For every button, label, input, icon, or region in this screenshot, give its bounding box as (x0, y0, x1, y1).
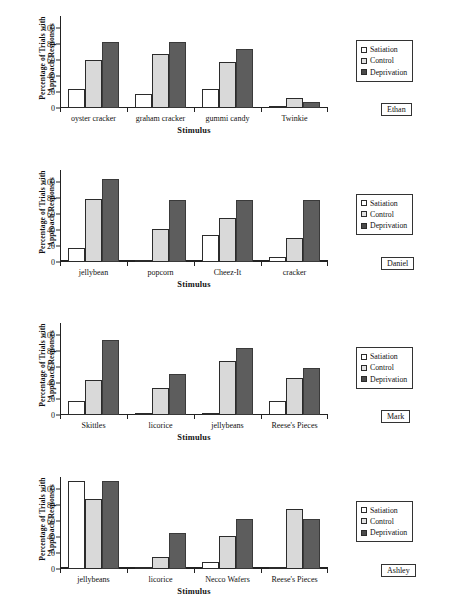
bar-deprivation (303, 200, 320, 262)
legend-swatch-icon (361, 58, 367, 64)
plot-area: 020406080100SkittleslicoricejellybeansRe… (60, 323, 328, 415)
x-axis-title: Stimulus (60, 126, 328, 135)
bar-deprivation (102, 481, 119, 569)
x-axis-tick-mark (60, 108, 61, 112)
x-axis-tick-mark (127, 108, 128, 112)
bar-group: graham cracker (127, 16, 194, 108)
x-axis-tick-mark (127, 415, 128, 419)
x-axis-category-label: gummi candy (194, 114, 261, 123)
x-axis-category-label: jellybeans (194, 421, 261, 430)
bars (135, 170, 186, 262)
legend-label: Deprivation (370, 220, 407, 231)
bar-group: Necco Wafers (194, 477, 261, 569)
bar-control (286, 98, 303, 108)
x-axis-category-label: Reese's Pieces (261, 421, 328, 430)
bar-control (286, 238, 303, 262)
bar-deprivation (102, 179, 119, 261)
bar-groups: jellybeanpopcornCheez-Itcracker (60, 170, 328, 262)
x-axis-tick-mark (194, 262, 195, 266)
chart-panel-ashley: Percentage of Trials with Approach Respo… (0, 461, 467, 614)
plot-area: 020406080100oyster crackergraham cracker… (60, 16, 328, 108)
x-axis-category-label: Cheez-It (194, 268, 261, 277)
legend-item: Deprivation (361, 220, 407, 231)
x-axis-tick-mark (60, 262, 61, 266)
bars (269, 477, 320, 569)
bar-deprivation (169, 42, 186, 108)
bar-satiation (68, 248, 85, 262)
legend: SatiationControlDeprivation (356, 347, 413, 389)
bar-control (85, 60, 102, 108)
bar-group: Skittles (60, 323, 127, 415)
x-axis-tick-mark (327, 569, 328, 573)
x-axis-tick-mark (127, 262, 128, 266)
bar-group: popcorn (127, 170, 194, 262)
x-axis-tick-mark (60, 569, 61, 573)
legend-swatch-icon (361, 530, 367, 536)
legend-label: Control (370, 516, 394, 527)
x-axis-category-label: graham cracker (127, 114, 194, 123)
participant-tag: Ethan (381, 103, 412, 116)
legend-item: Satiation (361, 44, 407, 55)
bars (202, 323, 253, 415)
participant-tag: Ashley (381, 564, 416, 577)
bar-deprivation (169, 374, 186, 415)
x-axis-category-label: Twinkie (261, 114, 328, 123)
bars (135, 16, 186, 108)
legend-label: Control (370, 209, 394, 220)
x-axis-tick-mark (261, 569, 262, 573)
bar-group: licorice (127, 477, 194, 569)
legend-item: Control (361, 209, 407, 220)
bars (202, 170, 253, 262)
bar-group: Cheez-It (194, 170, 261, 262)
legend-swatch-icon (361, 223, 367, 229)
legend-item: Control (361, 362, 407, 373)
bar-group: gummi candy (194, 16, 261, 108)
x-axis-title: Stimulus (60, 280, 328, 289)
bar-group: cracker (261, 170, 328, 262)
legend-item: Deprivation (361, 527, 407, 538)
bar-satiation (135, 260, 152, 262)
legend-label: Deprivation (370, 527, 407, 538)
x-axis-title: Stimulus (60, 587, 328, 596)
chart-panel-ethan: Percentage of Trials with Approach Respo… (0, 0, 467, 154)
legend-label: Satiation (370, 44, 398, 55)
bar-deprivation (303, 519, 320, 569)
legend-swatch-icon (361, 354, 367, 360)
legend: SatiationControlDeprivation (356, 501, 413, 543)
bar-control (219, 218, 236, 262)
bar-satiation (202, 562, 219, 568)
bar-control (152, 229, 169, 262)
bar-group: jellybeans (194, 323, 261, 415)
legend-swatch-icon (361, 365, 367, 371)
plot-area: 020406080100jellybeanslicoriceNecco Wafe… (60, 477, 328, 569)
bar-control (219, 361, 236, 415)
bars (269, 323, 320, 415)
bar-deprivation (102, 42, 119, 108)
bar-groups: jellybeanslicoriceNecco WafersReese's Pi… (60, 477, 328, 569)
bar-satiation (269, 567, 286, 569)
legend-item: Satiation (361, 351, 407, 362)
x-axis-tick-mark (327, 415, 328, 419)
x-axis-category-label: Reese's Pieces (261, 575, 328, 584)
bars (269, 170, 320, 262)
legend-label: Control (370, 55, 394, 66)
legend: SatiationControlDeprivation (356, 194, 413, 236)
bar-control (152, 557, 169, 568)
bar-group: Twinkie (261, 16, 328, 108)
bar-group: jellybeans (60, 477, 127, 569)
bar-group: licorice (127, 323, 194, 415)
bar-control (152, 388, 169, 415)
legend-item: Control (361, 516, 407, 527)
bar-satiation (269, 401, 286, 415)
x-axis-tick-mark (60, 415, 61, 419)
bar-deprivation (102, 340, 119, 415)
bar-control (85, 380, 102, 415)
bar-group: Reese's Pieces (261, 477, 328, 569)
chart-panel-mark: Percentage of Trials with Approach Respo… (0, 307, 467, 461)
x-axis-tick-mark (194, 415, 195, 419)
bar-groups: SkittleslicoricejellybeansReese's Pieces (60, 323, 328, 415)
bar-satiation (135, 567, 152, 569)
x-axis-category-label: popcorn (127, 268, 194, 277)
bar-satiation (135, 94, 152, 108)
x-axis-category-label: Skittles (60, 421, 127, 430)
